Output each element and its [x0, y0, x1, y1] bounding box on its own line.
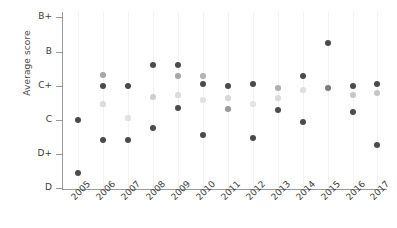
point-2005-a [75, 117, 81, 123]
x-tick-label-2006: 2006 [94, 179, 117, 202]
point-2012-a [250, 81, 256, 87]
y-tick-label-B+: B+ [8, 12, 52, 21]
point-2005-b [75, 170, 81, 176]
point-2013-b [275, 95, 280, 100]
point-2006-d [100, 137, 106, 143]
point-2010-b [200, 81, 206, 87]
point-2017-b [374, 90, 380, 96]
y-tick-label-C+: C+ [8, 81, 52, 90]
gridline-2009 [178, 12, 179, 189]
point-2015-b [325, 85, 331, 91]
point-2017-a [374, 81, 380, 87]
gridline-2007 [128, 12, 129, 189]
point-2009-b [175, 73, 181, 79]
y-tick-mark-C [56, 120, 62, 121]
gridline-2017 [377, 12, 378, 189]
point-2014-c [300, 119, 306, 125]
x-tick-label-2011: 2011 [219, 179, 242, 202]
x-tick-label-2017: 2017 [368, 179, 391, 202]
point-2013-c [275, 107, 281, 113]
point-2008-a [150, 62, 156, 68]
y-tick-label-B: B [8, 47, 52, 56]
y-axis-line [62, 12, 63, 189]
x-tick-label-2008: 2008 [144, 179, 167, 202]
point-2008-c [150, 125, 156, 131]
gridline-2008 [153, 12, 154, 189]
point-2014-b [300, 87, 305, 92]
point-2016-c [350, 109, 356, 115]
y-tick-label-D: D [8, 183, 52, 192]
point-2009-d [175, 105, 181, 111]
point-2007-b [125, 115, 130, 120]
point-2016-b [350, 92, 356, 98]
point-2010-c [200, 97, 205, 102]
x-tick-label-2015: 2015 [319, 179, 342, 202]
y-tick-mark-D+ [56, 154, 62, 155]
point-2014-a [300, 73, 306, 79]
point-2012-c [250, 135, 256, 141]
point-2006-c [100, 101, 105, 106]
y-tick-mark-D [56, 188, 62, 189]
point-2008-b [150, 94, 156, 100]
y-tick-label-C: C [8, 115, 52, 124]
y-tick-mark-B [56, 52, 62, 53]
gridline-2005 [78, 12, 79, 189]
x-tick-label-2012: 2012 [244, 179, 267, 202]
chart-root: Average score B+BC+CD+D 2005200620072008… [0, 0, 397, 228]
point-2012-b [250, 101, 255, 106]
point-2009-c [175, 92, 180, 97]
point-2009-a [175, 62, 181, 68]
point-2017-c [374, 142, 380, 148]
gridline-2016 [353, 12, 354, 189]
x-tick-label-2013: 2013 [269, 179, 292, 202]
point-2011-c [225, 106, 231, 112]
point-2007-a [125, 83, 131, 89]
point-2006-a [100, 72, 106, 78]
point-2010-d [200, 132, 206, 138]
point-2007-c [125, 137, 131, 143]
point-2011-a [225, 83, 231, 89]
point-2011-b [225, 95, 230, 100]
x-tick-label-2005: 2005 [69, 179, 92, 202]
y-tick-mark-C+ [56, 86, 62, 87]
x-tick-label-2016: 2016 [344, 179, 367, 202]
y-tick-label-D+: D+ [8, 149, 52, 158]
x-tick-label-2009: 2009 [169, 179, 192, 202]
y-tick-mark-B+ [56, 17, 62, 18]
x-tick-label-2010: 2010 [194, 179, 217, 202]
point-2006-b [100, 83, 106, 89]
point-2015-a [325, 40, 331, 46]
point-2010-a [200, 73, 206, 79]
gridline-2015 [328, 12, 329, 189]
x-tick-label-2014: 2014 [294, 179, 317, 202]
x-tick-label-2007: 2007 [119, 179, 142, 202]
point-2013-a [275, 85, 281, 91]
gridline-2014 [303, 12, 304, 189]
point-2016-a [350, 83, 356, 89]
y-axis-title: Average score [22, 3, 38, 123]
